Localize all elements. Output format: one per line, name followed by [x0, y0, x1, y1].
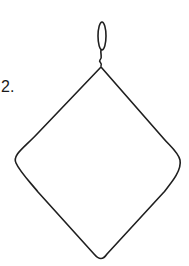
wire-diamond-drawing [0, 0, 189, 266]
diamond-frame [15, 67, 180, 259]
twist-knot [100, 50, 102, 66]
hanging-loop [98, 22, 106, 50]
